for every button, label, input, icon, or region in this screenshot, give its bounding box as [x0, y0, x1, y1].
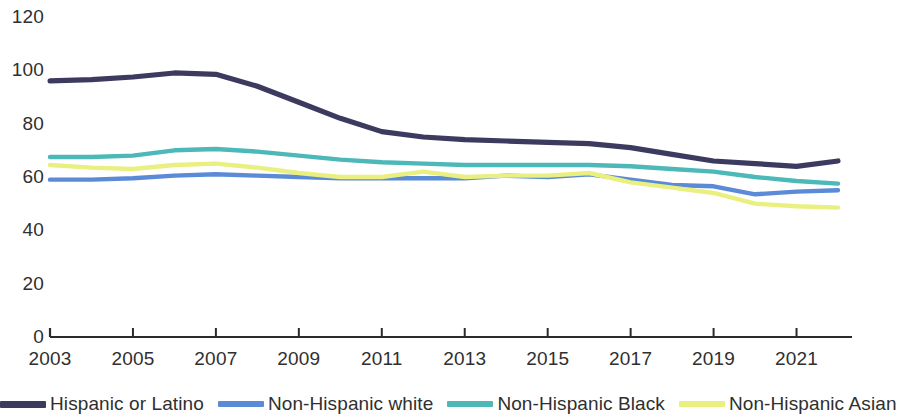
x-axis-tick-label: 2007 — [181, 348, 251, 370]
y-axis-tick-label: 40 — [2, 220, 44, 239]
legend-item[interactable]: Hispanic or Latino — [0, 393, 204, 415]
y-axis-tick-label: 80 — [2, 114, 44, 133]
x-axis-tick-label: 2005 — [98, 348, 168, 370]
y-axis-tick-label: 100 — [2, 60, 44, 79]
legend-item[interactable]: Non-Hispanic white — [218, 393, 433, 415]
legend-item[interactable]: Non-Hispanic Asian — [679, 393, 897, 415]
x-axis-tick-label: 2015 — [513, 348, 583, 370]
legend-label: Non-Hispanic Black — [497, 393, 665, 415]
y-axis-tick-label: 120 — [2, 7, 44, 26]
x-axis-tick-label: 2017 — [596, 348, 666, 370]
x-axis: 2003200520072009201120132015201720192021 — [0, 348, 858, 378]
y-axis: 120100806040200 — [0, 0, 44, 380]
plot-area — [0, 0, 858, 380]
x-axis-tick-label: 2011 — [347, 348, 417, 370]
x-axis-tick-label: 2013 — [430, 348, 500, 370]
legend-color-swatch — [218, 401, 264, 407]
legend-label: Non-Hispanic Asian — [729, 393, 897, 415]
legend-color-swatch — [0, 401, 46, 408]
x-axis-tick-label: 2003 — [15, 348, 85, 370]
y-axis-tick-label: 20 — [2, 274, 44, 293]
chart-legend: Hispanic or LatinoNon-Hispanic whiteNon-… — [0, 388, 858, 420]
y-axis-tick-label: 0 — [2, 327, 44, 346]
legend-label: Hispanic or Latino — [50, 393, 204, 415]
x-axis-tick-label: 2021 — [762, 348, 832, 370]
y-axis-tick-label: 60 — [2, 167, 44, 186]
legend-item[interactable]: Non-Hispanic Black — [447, 393, 665, 415]
legend-color-swatch — [679, 401, 725, 407]
legend-label: Non-Hispanic white — [268, 393, 433, 415]
plot-svg — [0, 0, 858, 380]
x-axis-tick-label: 2009 — [264, 348, 334, 370]
series-line-non-hispanic-white — [50, 174, 838, 194]
x-axis-tick-label: 2019 — [679, 348, 749, 370]
legend-color-swatch — [447, 401, 493, 407]
